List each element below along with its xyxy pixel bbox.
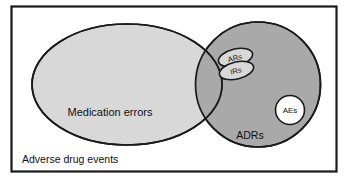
set-medication-errors-label: Medication errors — [68, 106, 153, 118]
set-adrs-label: ADRs — [236, 129, 263, 141]
venn-diagram-canvas: ARs IRs AEs Medication errors ADRs Adver… — [0, 0, 350, 181]
set-aes-label: AEs — [283, 106, 298, 115]
venn-diagram-figure: ARs IRs AEs Medication errors ADRs Adver… — [0, 0, 350, 181]
frame-caption: Adverse drug events — [22, 153, 118, 165]
